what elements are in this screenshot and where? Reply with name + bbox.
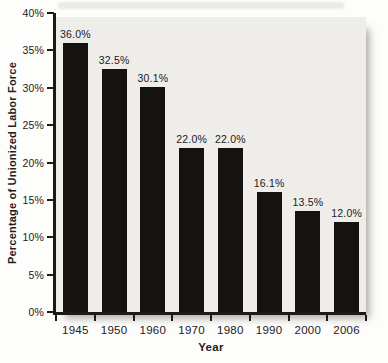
bar [295,211,320,312]
x-tick-label: 1945 [53,324,97,337]
x-tick-mark [210,315,212,321]
x-tick-mark [288,315,290,321]
bar [102,69,127,312]
x-tick-mark [94,315,96,321]
x-tick-label: 1970 [170,324,214,337]
bar-value-label: 32.5% [84,54,144,67]
x-tick-mark [171,315,173,321]
x-axis-title: Year [56,341,366,353]
bar [334,222,359,312]
y-tick-mark [47,199,54,201]
bar-value-label: 22.0% [200,133,260,146]
x-tick-mark [365,315,367,321]
y-tick-mark [47,12,54,14]
x-tick-label: 1990 [247,324,291,337]
bar [179,148,204,312]
x-tick-label: 1950 [92,324,136,337]
y-tick-mark [47,236,54,238]
y-tick-mark [47,311,54,313]
y-tick-mark [47,162,54,164]
union-bar-chart-figure: 0%5%10%15%20%25%30%35%40%36.0%194532.5%1… [0,0,388,363]
x-tick-mark [55,315,57,321]
bar [63,43,88,312]
y-axis-title: Percentage of Unionized Labor Force [6,13,20,313]
plot-layer: 0%5%10%15%20%25%30%35%40%36.0%194532.5%1… [0,0,388,363]
y-axis-line [53,13,56,315]
bar [257,192,282,312]
bar-value-label: 30.1% [123,72,183,85]
x-tick-label: 1980 [208,324,252,337]
y-tick-mark [47,87,54,89]
x-tick-label: 2006 [325,324,369,337]
y-tick-mark [47,49,54,51]
bar-value-label: 36.0% [45,28,105,41]
x-tick-mark [133,315,135,321]
bar [218,148,243,312]
bar [140,87,165,312]
x-tick-mark [249,315,251,321]
x-tick-label: 1960 [131,324,175,337]
x-tick-mark [326,315,328,321]
bar-value-label: 16.1% [239,177,299,190]
y-tick-mark [47,274,54,276]
x-tick-label: 2000 [286,324,330,337]
bar-value-label: 12.0% [317,207,377,220]
y-tick-mark [47,124,54,126]
